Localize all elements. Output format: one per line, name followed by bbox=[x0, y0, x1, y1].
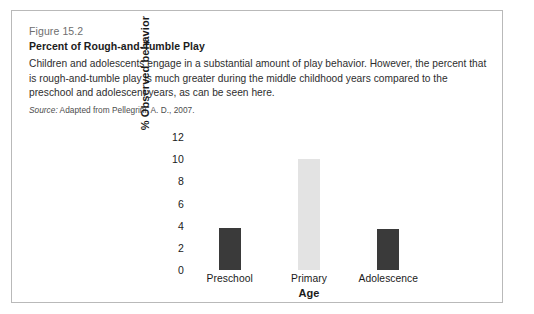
y-tick-label: 10 bbox=[172, 154, 184, 164]
figure-source: Source: Adapted from Pellegrini, A. D., … bbox=[29, 104, 491, 116]
bar-slot bbox=[190, 137, 269, 270]
y-axis-tick-labels: 12 10 8 6 4 2 0 bbox=[160, 137, 184, 270]
bar-adolescence bbox=[377, 229, 399, 270]
figure-source-text: Adapted from Pellegrini, A. D., 2007. bbox=[58, 105, 195, 115]
y-tick-label: 6 bbox=[178, 199, 184, 209]
y-axis-title: % Observed behavior bbox=[138, 3, 152, 143]
y-tick-label: 12 bbox=[172, 132, 184, 142]
bar-chart: % Observed behavior 12 10 8 6 4 2 0 Pres… bbox=[142, 137, 432, 302]
x-tick-label-adolescence: Adolescence bbox=[340, 273, 436, 285]
bar-primary bbox=[298, 159, 320, 270]
bar-preschool bbox=[219, 228, 241, 270]
x-axis-title: Age bbox=[190, 287, 428, 299]
y-tick-label: 8 bbox=[178, 176, 184, 186]
bar-slot bbox=[269, 137, 348, 270]
figure-box: Figure 15.2 Percent of Rough-and-Tumble … bbox=[11, 10, 503, 303]
y-tick-label: 4 bbox=[178, 221, 184, 231]
figure-number: Figure 15.2 bbox=[29, 24, 491, 38]
bar-slot bbox=[349, 137, 428, 270]
figure-caption-block: Figure 15.2 Percent of Rough-and-Tumble … bbox=[29, 24, 491, 116]
y-tick-label: 2 bbox=[178, 243, 184, 253]
plot-area: Preschool Primary Adolescence bbox=[190, 137, 428, 270]
figure-body-text: Children and adolescents engage in a sub… bbox=[29, 57, 487, 101]
figure-source-label: Source: bbox=[29, 105, 58, 115]
figure-title: Percent of Rough-and-Tumble Play bbox=[29, 39, 491, 54]
